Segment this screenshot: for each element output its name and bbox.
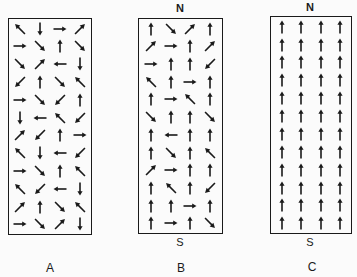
arrow-icon <box>313 108 329 124</box>
arrow-icon <box>52 38 68 54</box>
arrow-icon <box>182 91 198 107</box>
arrow-icon <box>32 199 48 215</box>
arrow-icon <box>313 215 329 231</box>
arrow-icon <box>52 74 68 90</box>
arrow-icon <box>12 74 28 90</box>
arrow-icon <box>163 21 179 37</box>
arrow-icon <box>293 180 309 196</box>
arrow-icon <box>274 54 290 70</box>
arrow-icon <box>274 162 290 178</box>
arrow-icon <box>274 72 290 88</box>
arrow-icon <box>182 56 198 72</box>
arrow-icon <box>32 163 48 179</box>
arrow-icon <box>202 21 218 37</box>
arrow-icon <box>332 126 348 142</box>
arrow-icon <box>72 145 88 161</box>
panel-a-box <box>8 18 92 235</box>
arrow-icon <box>293 37 309 53</box>
arrow-icon <box>293 126 309 142</box>
arrow-icon <box>72 216 88 232</box>
arrow-icon <box>274 144 290 160</box>
arrow-icon <box>313 37 329 53</box>
arrow-icon <box>72 163 88 179</box>
panel-c-south-label: S <box>300 236 320 248</box>
arrow-icon <box>32 74 48 90</box>
arrow-icon <box>332 162 348 178</box>
arrow-icon <box>32 38 48 54</box>
arrow-icon <box>52 110 68 126</box>
arrow-icon <box>143 38 159 54</box>
arrow-icon <box>313 126 329 142</box>
arrow-icon <box>202 127 218 143</box>
arrow-icon <box>32 56 48 72</box>
arrow-icon <box>313 54 329 70</box>
arrow-icon <box>12 127 28 143</box>
arrow-icon <box>143 21 159 37</box>
arrow-icon <box>274 108 290 124</box>
arrow-icon <box>12 199 28 215</box>
arrow-icon <box>72 92 88 108</box>
arrow-icon <box>182 162 198 178</box>
arrow-icon <box>163 198 179 214</box>
arrow-icon <box>202 145 218 161</box>
arrow-icon <box>274 215 290 231</box>
arrow-icon <box>182 198 198 214</box>
panel-b-box <box>138 18 223 234</box>
arrow-icon <box>12 92 28 108</box>
arrow-icon <box>202 91 218 107</box>
arrow-icon <box>293 19 309 35</box>
arrow-icon <box>163 56 179 72</box>
arrow-icon <box>52 199 68 215</box>
arrow-icon <box>313 72 329 88</box>
panel-c-label: C <box>302 260 322 274</box>
panel-c-arrow-grid <box>271 17 351 233</box>
arrow-icon <box>32 216 48 232</box>
arrow-icon <box>332 197 348 213</box>
arrow-icon <box>12 21 28 37</box>
arrow-icon <box>143 162 159 178</box>
arrow-icon <box>202 162 218 178</box>
arrow-icon <box>163 109 179 125</box>
arrow-icon <box>72 199 88 215</box>
arrow-icon <box>293 144 309 160</box>
arrow-icon <box>52 145 68 161</box>
arrow-icon <box>52 216 68 232</box>
arrow-icon <box>72 38 88 54</box>
arrow-icon <box>313 162 329 178</box>
panel-a-label: A <box>40 261 60 275</box>
arrow-icon <box>332 19 348 35</box>
arrow-icon <box>293 215 309 231</box>
arrow-icon <box>274 126 290 142</box>
arrow-icon <box>182 38 198 54</box>
arrow-icon <box>72 21 88 37</box>
arrow-icon <box>202 180 218 196</box>
arrow-icon <box>12 216 28 232</box>
arrow-icon <box>332 108 348 124</box>
arrow-icon <box>182 180 198 196</box>
arrow-icon <box>163 38 179 54</box>
arrow-icon <box>143 145 159 161</box>
arrow-icon <box>293 162 309 178</box>
arrow-icon <box>163 180 179 196</box>
arrow-icon <box>143 215 159 231</box>
arrow-icon <box>32 145 48 161</box>
arrow-icon <box>143 198 159 214</box>
arrow-icon <box>182 21 198 37</box>
arrow-icon <box>293 108 309 124</box>
arrow-icon <box>332 144 348 160</box>
arrow-icon <box>12 181 28 197</box>
arrow-icon <box>332 180 348 196</box>
panel-a-arrow-grid <box>9 19 91 234</box>
arrow-icon <box>72 56 88 72</box>
arrow-icon <box>202 74 218 90</box>
arrow-icon <box>274 197 290 213</box>
arrow-icon <box>182 127 198 143</box>
arrow-icon <box>72 127 88 143</box>
arrow-icon <box>32 110 48 126</box>
arrow-icon <box>182 74 198 90</box>
panel-b-north-label: N <box>170 2 190 14</box>
arrow-icon <box>163 74 179 90</box>
arrow-icon <box>32 92 48 108</box>
arrow-icon <box>52 127 68 143</box>
arrow-icon <box>313 19 329 35</box>
